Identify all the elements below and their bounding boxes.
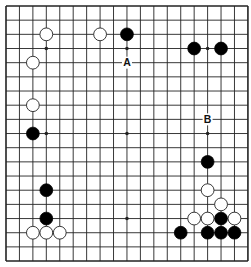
black-stone — [215, 212, 228, 225]
black-stone — [40, 212, 53, 225]
black-stone — [26, 127, 39, 140]
white-stone — [201, 184, 214, 197]
white-stone — [40, 226, 53, 239]
black-stone — [201, 226, 214, 239]
white-stone — [26, 226, 39, 239]
black-stone — [121, 28, 134, 41]
black-stone — [215, 42, 228, 55]
black-stone — [228, 226, 241, 239]
black-stone — [215, 226, 228, 239]
star-point — [125, 47, 129, 51]
white-stone — [26, 56, 39, 69]
white-stone — [201, 212, 214, 225]
star-point — [125, 217, 129, 221]
white-stone — [228, 212, 241, 225]
white-stone — [94, 28, 107, 41]
white-stone — [53, 226, 66, 239]
go-board: AB — [0, 0, 251, 267]
star-point — [125, 132, 129, 136]
white-stone — [26, 99, 39, 112]
black-stone — [201, 155, 214, 168]
point-label-a: A — [123, 56, 131, 68]
black-stone — [40, 184, 53, 197]
white-stone — [215, 198, 228, 211]
white-stone — [188, 212, 201, 225]
star-point — [45, 47, 49, 51]
black-stone — [174, 226, 187, 239]
white-stone — [40, 28, 53, 41]
star-point — [45, 132, 49, 136]
black-stone — [188, 42, 201, 55]
point-label-b: B — [204, 113, 212, 125]
star-point — [206, 47, 210, 51]
star-point — [206, 132, 210, 136]
